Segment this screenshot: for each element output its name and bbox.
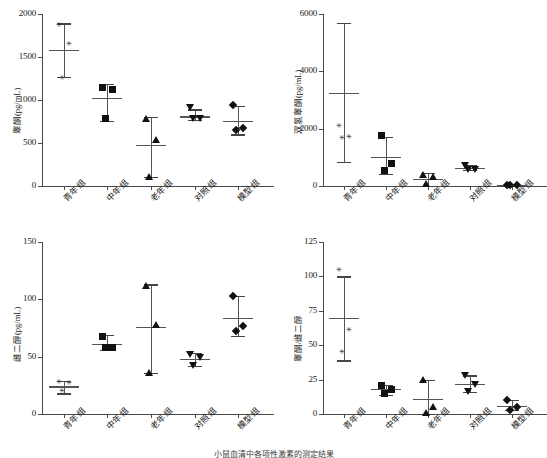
panel-dht: 0200040006000双氢睾酮(pg/mL)青年组✳✳✳中年组老年组对照组模… (281, 0, 547, 228)
y-tick (38, 143, 42, 144)
y-tick (319, 129, 323, 130)
y-tick-label: 1500 (2, 52, 36, 61)
figure-caption: 小鼠血清中各项性激素的测定结果 (0, 448, 547, 458)
error-cap-lower (231, 134, 245, 135)
y-tick (319, 380, 323, 381)
error-cap-upper (337, 276, 351, 277)
data-point (422, 409, 430, 416)
data-point (229, 101, 237, 109)
error-cap-lower (337, 162, 351, 163)
x-tick-label: 中年组 (103, 404, 131, 432)
error-cap-lower (379, 174, 393, 175)
data-point (145, 369, 153, 376)
mean-line (223, 318, 253, 319)
data-point (152, 321, 160, 328)
x-tick-label: 中年组 (103, 176, 131, 204)
y-tick-label: 6000 (283, 9, 317, 18)
y-tick (319, 14, 323, 15)
y-axis-label: 睾酮(pg/mL) (10, 88, 22, 134)
data-point: ✳ (59, 388, 65, 395)
x-tick-label: 青年组 (60, 176, 88, 204)
y-tick-label: 100 (283, 271, 317, 280)
mean-line (329, 93, 359, 94)
error-cap-lower (231, 336, 245, 337)
x-tick-label: 对照组 (466, 404, 494, 432)
x-tick-label: 青年组 (340, 176, 368, 204)
data-point (378, 382, 385, 389)
panel-testosterone: 0500100015002000睾酮(pg/mL)青年组✳✳✳中年组老年组对照组… (0, 0, 280, 228)
data-point: ✳ (66, 41, 72, 48)
mean-line (136, 327, 166, 328)
y-tick-label: 0 (283, 409, 317, 418)
data-point: ✳ (66, 380, 72, 387)
y-tick (319, 414, 323, 415)
data-point (461, 372, 469, 379)
mean-line (136, 145, 166, 146)
data-point: ✳ (56, 22, 62, 29)
data-point (99, 333, 106, 340)
y-axis-label: 睾酮/雌二醇 (291, 315, 303, 362)
y-tick (38, 357, 42, 358)
error-cap-upper (337, 23, 351, 24)
data-point (189, 362, 197, 369)
error-bar (151, 117, 152, 177)
data-point: ✳ (346, 327, 352, 334)
x-tick-label: 中年组 (382, 176, 410, 204)
y-tick-label: 0 (283, 181, 317, 190)
mean-line (413, 399, 443, 400)
y-tick-label: 2000 (2, 9, 36, 18)
data-point (102, 344, 109, 351)
y-tick-label: 0 (2, 409, 36, 418)
data-point (99, 84, 106, 91)
y-tick-label: 125 (283, 237, 317, 246)
data-point: ✳ (336, 123, 342, 130)
mean-line (92, 98, 122, 99)
y-tick-label: 0 (2, 181, 36, 190)
panel-ratio: 0255075100125睾酮/雌二醇青年组✳✳✳中年组老年组对照组模型组 (281, 228, 547, 456)
y-tick-label: 500 (2, 138, 36, 147)
mean-line (180, 359, 210, 360)
data-point (232, 327, 240, 335)
y-tick-label: 75 (283, 306, 317, 315)
data-point (239, 321, 247, 329)
mean-line (49, 50, 79, 51)
panel-estradiol: 050100150雌二醇(pg/mL)青年组✳✳✳中年组老年组对照组模型组 (0, 228, 280, 456)
y-tick-label: 25 (283, 375, 317, 384)
data-point (471, 381, 479, 388)
y-axis (323, 242, 324, 415)
data-point (464, 388, 472, 395)
x-tick-label: 老年组 (147, 176, 175, 204)
data-point (464, 166, 472, 173)
y-tick (319, 242, 323, 243)
data-point (503, 396, 511, 404)
data-point (419, 171, 427, 178)
data-point (186, 351, 194, 358)
y-tick (38, 186, 42, 187)
data-point (186, 104, 194, 111)
x-tick-label: 中年组 (382, 404, 410, 432)
mean-line (223, 121, 253, 122)
data-point: ✳ (336, 267, 342, 274)
data-point: ✳ (339, 349, 345, 356)
mean-line (455, 384, 485, 385)
x-tick-label: 模型组 (234, 176, 262, 204)
data-point (102, 115, 109, 122)
data-point: ✳ (59, 75, 65, 82)
error-bar (151, 284, 152, 372)
data-point (109, 344, 116, 351)
y-tick (319, 345, 323, 346)
data-point (142, 115, 150, 122)
hormone-figure: 0500100015002000睾酮(pg/mL)青年组✳✳✳中年组老年组对照组… (0, 0, 547, 458)
y-tick-label: 100 (2, 294, 36, 303)
mean-line (329, 318, 359, 319)
y-axis-label: 双氢睾酮(pg/mL) (291, 70, 303, 134)
data-point (152, 136, 160, 143)
x-tick-label: 青年组 (340, 404, 368, 432)
x-tick-label: 模型组 (508, 176, 536, 204)
data-point (388, 386, 395, 393)
data-point: ✳ (56, 379, 62, 386)
mean-line (371, 157, 401, 158)
y-axis-label: 雌二醇(pg/mL) (10, 307, 22, 362)
x-tick-label: 对照组 (191, 404, 219, 432)
y-tick (38, 100, 42, 101)
